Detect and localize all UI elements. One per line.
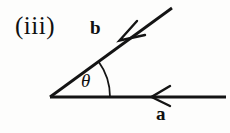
part-label: (iii) <box>15 13 55 38</box>
angle-arc <box>99 62 111 98</box>
vector-angle-figure: (iii) b a θ <box>0 0 230 133</box>
vector-b-line <box>50 8 172 97</box>
angle-theta-label: θ <box>81 71 90 90</box>
vector-b-label: b <box>90 18 101 37</box>
vector-a-label: a <box>156 104 166 123</box>
